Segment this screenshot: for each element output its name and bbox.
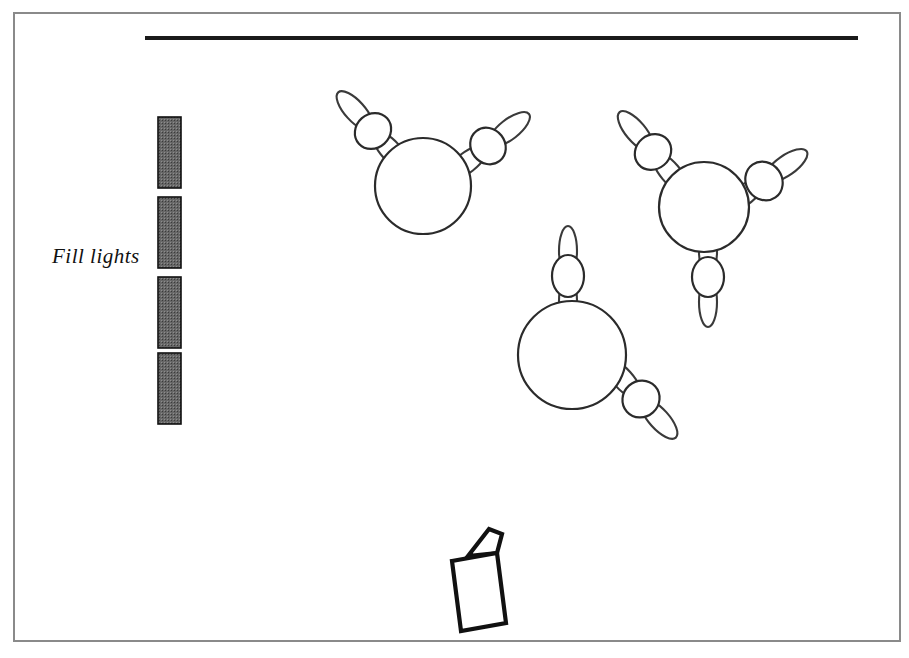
camera-body-shape <box>452 553 506 631</box>
drone-3-rotor-top-hub <box>552 255 584 297</box>
drone-3-body <box>518 301 626 409</box>
fill-lights-label: Fill lights <box>51 244 140 268</box>
fill-lights-group <box>158 117 181 424</box>
drone-2 <box>605 100 818 327</box>
drone-2-rotor-bottom-hub <box>692 257 724 297</box>
fill-light-3 <box>158 277 181 348</box>
fill-light-2 <box>158 197 181 268</box>
drone-1 <box>324 80 541 234</box>
drone-2-body <box>659 162 749 252</box>
outer-border <box>14 13 900 641</box>
scene-canvas: Fill lights <box>0 0 909 658</box>
drones-group <box>324 80 818 451</box>
fill-light-4 <box>158 353 181 424</box>
camera-rig <box>452 529 506 631</box>
drone-1-body <box>375 138 471 234</box>
studio-layout-diagram: Fill lights <box>0 0 909 658</box>
drone-3 <box>518 226 690 450</box>
fill-light-1 <box>158 117 181 188</box>
